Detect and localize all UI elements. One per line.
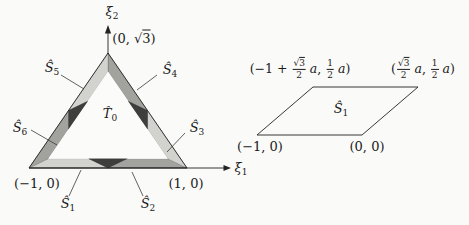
region-label-t0: T̂0: [103, 107, 117, 123]
parallelogram-corner-label-bottom-right: (0, 0): [350, 140, 385, 153]
region-label-s4: Ŝ4: [163, 63, 178, 79]
xi2-arrowhead-icon: [105, 25, 111, 34]
xi2-axis-label: ξ2: [106, 5, 119, 21]
leader-s5: [61, 75, 84, 89]
vertex-label-bottom-right: (1, 0): [169, 177, 204, 190]
leader-s2: [132, 172, 143, 196]
vertex-label-bottom-left: (−1, 0): [14, 177, 60, 190]
diagram-svg: [0, 0, 469, 225]
xi1-arrowhead-icon: [224, 165, 232, 171]
region-label-s2: Ŝ2: [141, 197, 156, 213]
region-label-s6: Ŝ6: [13, 121, 28, 137]
region-label-s1: Ŝ1: [61, 197, 76, 213]
vertex-label-top: (0, √3): [112, 32, 155, 45]
parallelogram-corner-label-top-left: (−1 + √32a, 12a): [250, 58, 351, 80]
region-label-s3: Ŝ3: [190, 121, 205, 137]
figure-canvas: ξ2 (0, √3) Ŝ5 Ŝ4 T̂0 Ŝ6 Ŝ3 (−1, 0) (1, 0…: [0, 0, 469, 225]
leader-s1: [69, 170, 81, 196]
parallelogram-corner-label-top-right: (√32a, 12a): [391, 58, 455, 80]
parallelogram-corner-label-bottom-left: (−1, 0): [237, 140, 283, 153]
leader-s4: [137, 75, 157, 90]
region-label-s5: Ŝ5: [45, 61, 60, 77]
xi1-axis-label: ξ1: [235, 161, 248, 177]
parallelogram-region-label-s1: Ŝ1: [334, 102, 349, 118]
